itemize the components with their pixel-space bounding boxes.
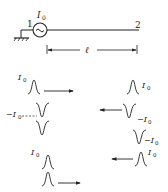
svg-text:0: 0: [18, 114, 22, 120]
svg-text:0: 0: [155, 140, 159, 146]
ground-icon: [14, 30, 33, 41]
node-1-label: 1: [27, 19, 33, 29]
svg-text:0: 0: [148, 119, 152, 125]
ac-source-icon: [33, 23, 47, 37]
right-pulse-4: I 0: [112, 148, 157, 166]
length-label: ℓ: [85, 45, 89, 55]
svg-text:I: I: [141, 81, 146, 90]
svg-text:0: 0: [36, 152, 40, 158]
transmission-line-diagram: 1 2 I 0 ℓ I 0 −I 0 I 0: [0, 0, 168, 192]
right-pulse-3: −I 0: [133, 130, 159, 146]
svg-text:−I: −I: [137, 115, 148, 124]
svg-text:−I: −I: [144, 136, 155, 145]
svg-text:0: 0: [23, 77, 27, 83]
svg-text:I: I: [147, 148, 152, 157]
left-pulse-3: I 0: [30, 148, 80, 186]
length-dimension: ℓ: [47, 45, 137, 55]
right-pulse-1: I 0: [127, 80, 151, 94]
svg-text:0: 0: [42, 14, 46, 21]
svg-text:−I: −I: [6, 110, 17, 119]
node-2-label: 2: [135, 20, 141, 30]
svg-text:I: I: [30, 148, 35, 157]
svg-text:I: I: [17, 73, 22, 82]
source-current-label: I 0: [36, 10, 46, 21]
left-pulse-1: I 0: [17, 73, 73, 94]
circuit: 1 2 I 0 ℓ: [14, 10, 141, 55]
svg-text:I: I: [36, 10, 41, 20]
svg-text:0: 0: [147, 85, 151, 91]
left-pulse-2: −I 0: [6, 103, 49, 135]
right-pulse-2: −I 0: [100, 104, 152, 125]
svg-text:0: 0: [153, 152, 157, 158]
